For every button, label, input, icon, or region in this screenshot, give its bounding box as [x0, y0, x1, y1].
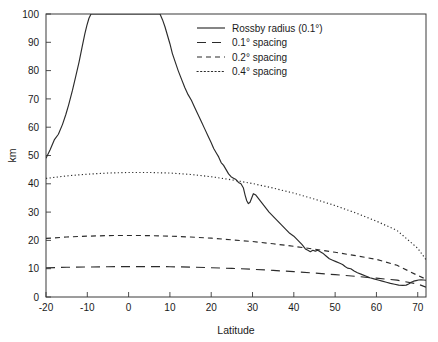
y-tick-label: 100	[22, 9, 39, 20]
chart-legend: Rossby radius (0.1°)0.1° spacing0.2° spa…	[197, 23, 323, 78]
x-tick-label: 10	[164, 302, 176, 313]
x-tick-label: 0	[126, 302, 132, 313]
x-axis-label: Latitude	[217, 324, 255, 336]
x-tick-label: 70	[412, 302, 424, 313]
x-axis-ticks: -20-10010203040506070	[39, 292, 424, 313]
y-tick-label: 60	[28, 122, 40, 133]
y-tick-label: 30	[28, 207, 40, 218]
y-tick-label: 80	[28, 65, 40, 76]
y-tick-label: 20	[28, 235, 40, 246]
y-tick-label: 50	[28, 150, 40, 161]
x-tick-label: 30	[247, 302, 259, 313]
y-tick-label: 0	[33, 292, 39, 303]
y-tick-label: 70	[28, 94, 40, 105]
y-tick-label: 40	[28, 178, 40, 189]
x-tick-label: 40	[288, 302, 300, 313]
legend-label: 0.1° spacing	[232, 37, 287, 48]
legend-label: Rossby radius (0.1°)	[232, 23, 323, 34]
legend-label: 0.4° spacing	[232, 66, 287, 77]
x-tick-label: -20	[39, 302, 54, 313]
series-line-dotted	[46, 172, 426, 259]
y-axis-label: km	[6, 148, 18, 162]
chart-plot-area: 0102030405060708090100 -20-1001020304050…	[0, 0, 438, 342]
x-tick-label: 60	[371, 302, 383, 313]
x-tick-label: 20	[206, 302, 218, 313]
x-tick-label: -10	[80, 302, 95, 313]
chart-figure: 0102030405060708090100 -20-1001020304050…	[0, 0, 438, 342]
y-tick-label: 10	[28, 263, 40, 274]
legend-label: 0.2° spacing	[232, 52, 287, 63]
series-line-dash	[46, 235, 426, 279]
x-tick-label: 50	[330, 302, 342, 313]
y-tick-label: 90	[28, 37, 40, 48]
